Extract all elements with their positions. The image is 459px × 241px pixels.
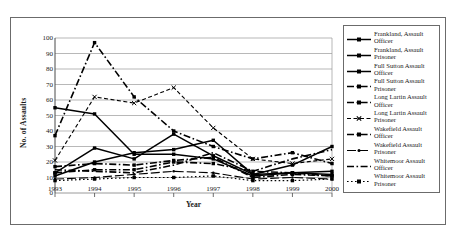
data-point — [212, 172, 215, 175]
data-point — [53, 134, 56, 137]
data-point — [53, 174, 56, 177]
data-point — [93, 112, 96, 115]
legend-label: Frankland, Assault Prisoner — [374, 46, 423, 61]
legend-label: Long Lartin Assault Officer — [374, 93, 427, 108]
series-0 — [53, 106, 333, 178]
data-point — [172, 176, 175, 179]
x-axis-tick-1995: 1995 — [127, 186, 141, 193]
legend-item[interactable]: Long Lartin Assault Prisoner — [346, 109, 436, 124]
data-point — [172, 153, 175, 156]
x-axis-tick-1997: 1997 — [206, 186, 220, 193]
data-point — [330, 170, 333, 173]
legend-item[interactable]: Whitemoor Assault Officer — [346, 157, 436, 172]
data-point — [93, 41, 96, 44]
data-point — [53, 171, 56, 174]
data-point — [53, 106, 56, 109]
data-point — [251, 179, 254, 182]
x-axis-title: Year — [55, 200, 332, 209]
y-axis-tick-40: 40 — [46, 128, 53, 135]
legend-swatch-icon — [346, 47, 372, 58]
x-axis-tick-1994: 1994 — [88, 186, 102, 193]
plot-area — [55, 38, 332, 193]
data-point — [93, 162, 96, 165]
series-canvas — [55, 38, 332, 193]
data-point — [132, 163, 135, 166]
legend-item[interactable]: Wakefield Assault Prisoner — [346, 141, 436, 156]
data-point — [291, 151, 294, 154]
legend-swatch-icon — [346, 78, 372, 89]
legend-item[interactable]: Full Sutton Assault Officer — [346, 62, 436, 77]
data-point — [172, 129, 175, 132]
data-point — [172, 170, 175, 173]
data-point — [291, 179, 294, 182]
data-point — [53, 165, 56, 168]
data-point — [92, 95, 96, 99]
data-point — [93, 168, 96, 171]
x-axis-tick-2000: 2000 — [325, 186, 339, 193]
x-axis-tick-1993: 1993 — [48, 186, 62, 193]
data-point — [330, 145, 333, 148]
legend-item[interactable]: Long Lartin Assault Officer — [346, 93, 436, 108]
data-point — [132, 176, 135, 179]
y-axis-tick-50: 50 — [46, 112, 53, 119]
data-point — [212, 162, 215, 165]
x-axis-tick-1996: 1996 — [167, 186, 181, 193]
y-axis-tick-100: 100 — [43, 35, 54, 42]
data-point — [172, 160, 175, 163]
legend-label: Full Sutton Assault Prisoner — [374, 77, 425, 92]
series-line — [55, 176, 332, 181]
x-axis-tick-1999: 1999 — [285, 186, 299, 193]
legend-label: Full Sutton Assault Officer — [374, 62, 425, 77]
y-axis-tick-30: 30 — [46, 143, 53, 150]
data-point — [93, 146, 96, 149]
chart-legend: Frankland, Assault OfficerFrankland, Ass… — [343, 25, 440, 193]
y-axis-tick-20: 20 — [46, 159, 53, 166]
data-point — [330, 177, 333, 180]
data-point — [330, 174, 333, 177]
legend-label: Wakefield Assault Prisoner — [374, 141, 422, 156]
chart-figure: No. of Assaults 0102030405060708090100 1… — [10, 17, 446, 225]
legend-label: Whitemoor Assault Officer — [374, 157, 425, 172]
y-axis-tick-70: 70 — [46, 81, 53, 88]
series-line — [55, 134, 332, 174]
data-point — [172, 148, 175, 151]
legend-item[interactable]: Frankland, Assault Prisoner — [346, 46, 436, 61]
legend-item[interactable]: Full Sutton Assault Prisoner — [346, 77, 436, 92]
data-point — [291, 176, 294, 179]
legend-label: Long Lartin Assault Prisoner — [374, 109, 427, 124]
data-point — [212, 145, 215, 148]
data-point — [330, 162, 333, 165]
legend-swatch-icon — [346, 126, 372, 137]
x-axis-tick-labels: 19931994199519961997199819992000 — [55, 186, 332, 198]
legend-swatch-icon — [346, 158, 372, 169]
legend-swatch-icon — [346, 31, 372, 42]
legend-label: Frankland, Assault Officer — [374, 30, 423, 45]
legend-item[interactable]: Wakefield Assault Officer — [346, 125, 436, 140]
legend-swatch-icon — [346, 94, 372, 105]
series-line — [55, 157, 332, 177]
legend-swatch-icon — [346, 142, 372, 153]
legend-item[interactable]: Frankland, Assault Officer — [346, 30, 436, 45]
legend-swatch-icon — [346, 110, 372, 121]
legend-swatch-icon — [346, 63, 372, 74]
data-point — [132, 151, 135, 154]
legend-swatch-icon — [346, 173, 372, 184]
data-point — [291, 171, 294, 174]
data-point — [53, 179, 56, 182]
data-point — [132, 157, 135, 160]
data-point — [212, 156, 215, 159]
y-axis-tick-80: 80 — [46, 66, 53, 73]
y-axis-tick-60: 60 — [46, 97, 53, 104]
data-point — [132, 95, 135, 98]
data-point — [212, 139, 215, 142]
legend-label: Wakefield Assault Officer — [374, 125, 422, 140]
data-point — [93, 177, 96, 180]
data-point — [211, 126, 215, 130]
y-axis-tick-10: 10 — [46, 174, 53, 181]
data-point — [172, 132, 175, 135]
data-point — [132, 168, 135, 171]
x-axis-tick-1998: 1998 — [246, 186, 260, 193]
legend-item[interactable]: Whitemoor Assault Prisoner — [346, 172, 436, 187]
y-axis-tick-90: 90 — [46, 50, 53, 57]
legend-label: Whitemoor Assault Prisoner — [374, 172, 425, 187]
